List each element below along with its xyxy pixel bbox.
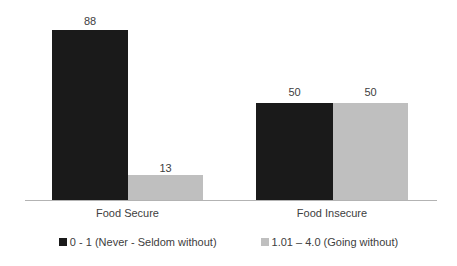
bar-group-food-insecure	[256, 0, 408, 200]
bar-chart: 88 13 50 50 Food Secure Food Insecure 0 …	[0, 0, 457, 266]
x-axis-line	[25, 200, 437, 201]
category-label-food-insecure: Food Insecure	[256, 207, 408, 219]
bar-food-insecure-series-1[interactable]	[333, 103, 408, 200]
bar-food-secure-series-1[interactable]	[128, 175, 203, 200]
chart-legend: 0 - 1 (Never - Seldom without) 1.01 – 4.…	[0, 236, 457, 248]
bar-food-secure-series-0[interactable]	[52, 30, 128, 200]
legend-swatch-black-icon	[59, 238, 67, 246]
data-label-food-insecure-series-0: 50	[256, 86, 333, 98]
legend-swatch-gray-icon	[261, 238, 269, 246]
data-label-food-insecure-series-1: 50	[333, 86, 408, 98]
legend-label-series-0: 0 - 1 (Never - Seldom without)	[70, 236, 217, 248]
legend-label-series-1: 1.01 – 4.0 (Going without)	[272, 236, 399, 248]
legend-item-series-0[interactable]: 0 - 1 (Never - Seldom without)	[59, 236, 217, 248]
category-label-food-secure: Food Secure	[52, 207, 203, 219]
data-label-food-secure-series-0: 88	[52, 15, 128, 27]
legend-item-series-1[interactable]: 1.01 – 4.0 (Going without)	[261, 236, 399, 248]
bar-food-insecure-series-0[interactable]	[256, 103, 333, 200]
data-label-food-secure-series-1: 13	[128, 162, 203, 174]
plot-area: 88 13 50 50	[0, 0, 457, 200]
